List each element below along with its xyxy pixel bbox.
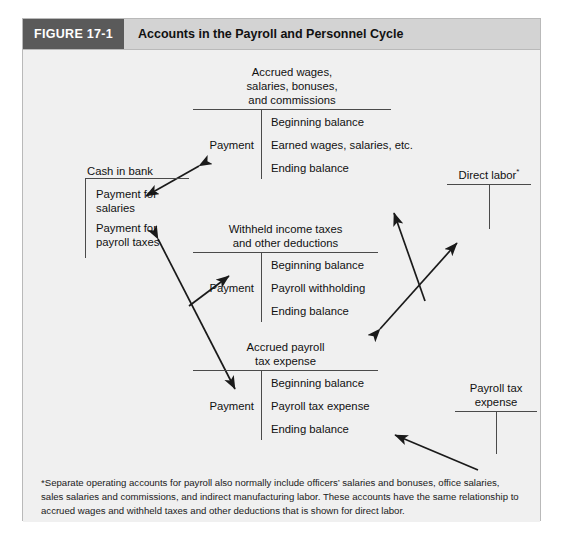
figure-footnote: *Separate operating accounts for payroll… — [41, 476, 523, 518]
figure-header: FIGURE 17-1 Accounts in the Payroll and … — [23, 19, 540, 50]
withheld-taxes-entry-beginning-balance: Beginning balance — [271, 253, 378, 276]
accrued-payroll-tax-payment-label: Payment — [193, 371, 261, 440]
account-accrued-wages-body: Payment Beginning balance Earned wages, … — [193, 110, 391, 179]
screenshot-root: FIGURE 17-1 Accounts in the Payroll and … — [0, 0, 563, 549]
account-accrued-payroll-tax-expense-body: Payment Beginning balance Payroll tax ex… — [193, 371, 378, 440]
account-withheld-income-taxes-body: Payment Beginning balance Payroll withho… — [193, 253, 378, 322]
cash-entry-payment-payroll-taxes: Payment for payroll taxes — [96, 218, 189, 252]
account-direct-labor-stem — [489, 185, 490, 229]
accrued-wages-entry-beginning-balance: Beginning balance — [271, 110, 391, 133]
account-direct-labor-title: Direct labor* — [447, 167, 531, 184]
account-accrued-wages: Accrued wages, salaries, bonuses, and co… — [193, 65, 391, 179]
arrow-withheld-to-earned-wages — [394, 213, 425, 301]
accrued-payroll-tax-entry-ending-balance: Ending balance — [271, 417, 378, 440]
accrued-payroll-tax-entries: Beginning balance Payroll tax expense En… — [261, 371, 378, 440]
account-accrued-payroll-tax-expense-title: Accrued payroll tax expense — [193, 340, 378, 370]
direct-labor-footnote-marker: * — [516, 167, 519, 176]
accrued-wages-entry-ending-balance: Ending balance — [271, 156, 391, 179]
arrow-withholding-to-direct-labor — [380, 243, 457, 329]
diagram-canvas: Cash in bank Payment for salaries Paymen… — [23, 50, 540, 522]
accrued-wages-payment-label: Payment — [193, 110, 261, 179]
account-cash-in-bank-title: Cash in bank — [85, 164, 189, 178]
account-payroll-tax-expense-title: Payroll tax expense — [455, 381, 537, 411]
withheld-taxes-payment-label: Payment — [193, 253, 261, 322]
figure-number-label: FIGURE 17-1 — [23, 19, 124, 49]
withheld-taxes-entry-payroll-withholding: Payroll withholding — [271, 276, 378, 299]
withheld-taxes-entries: Beginning balance Payroll withholding En… — [261, 253, 378, 322]
cash-entry-payment-salaries: Payment for salaries — [96, 184, 189, 218]
account-payroll-tax-expense: Payroll tax expense — [455, 381, 537, 454]
account-accrued-wages-title: Accrued wages, salaries, bonuses, and co… — [193, 65, 391, 109]
account-withheld-income-taxes: Withheld income taxes and other deductio… — [193, 222, 378, 322]
figure-title: Accounts in the Payroll and Personnel Cy… — [124, 19, 540, 49]
account-payroll-tax-expense-stem — [496, 412, 497, 454]
account-accrued-payroll-tax-expense: Accrued payroll tax expense Payment Begi… — [193, 340, 378, 440]
accrued-wages-entry-earned-wages: Earned wages, salaries, etc. — [271, 133, 391, 156]
accrued-payroll-tax-entry-payroll-tax-expense: Payroll tax expense — [271, 394, 378, 417]
account-cash-in-bank-entries: Payment for salaries Payment for payroll… — [85, 179, 189, 258]
figure-panel: FIGURE 17-1 Accounts in the Payroll and … — [22, 18, 541, 521]
account-withheld-income-taxes-title: Withheld income taxes and other deductio… — [193, 222, 378, 252]
account-cash-in-bank: Cash in bank Payment for salaries Paymen… — [85, 164, 189, 258]
accrued-payroll-tax-entry-beginning-balance: Beginning balance — [271, 371, 378, 394]
account-direct-labor: Direct labor* — [447, 167, 531, 229]
withheld-taxes-entry-ending-balance: Ending balance — [271, 299, 378, 322]
account-direct-labor-title-text: Direct labor — [459, 169, 517, 181]
accrued-wages-entries: Beginning balance Earned wages, salaries… — [261, 110, 391, 179]
